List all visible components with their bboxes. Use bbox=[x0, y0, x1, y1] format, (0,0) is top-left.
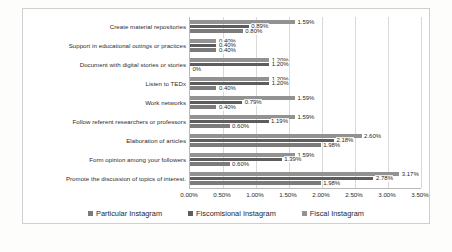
x-axis-tick-label: 1.00% bbox=[246, 191, 264, 199]
category-label: Listen to TEDx bbox=[27, 80, 186, 87]
x-axis-tick-label: 3.00% bbox=[378, 191, 396, 199]
data-label: 0.40% bbox=[218, 85, 236, 92]
category-label: Document with digital stories or stories bbox=[27, 61, 186, 68]
plot-wrapper: Create material repositoriesSupport in e… bbox=[23, 9, 429, 223]
x-axis-tick-label: 2.50% bbox=[345, 191, 363, 199]
bar-fiscomisional-instagram[interactable] bbox=[190, 44, 216, 48]
category-label: Elaboration of articles bbox=[27, 137, 186, 144]
legend-swatch-icon bbox=[88, 211, 93, 216]
data-label: 1.98% bbox=[323, 142, 341, 149]
data-label: 0.40% bbox=[218, 47, 236, 54]
data-label: 1.59% bbox=[297, 95, 315, 102]
bar-fiscomisional-instagram[interactable] bbox=[190, 63, 269, 67]
bar-particular-instagram[interactable] bbox=[190, 181, 321, 185]
data-label: 1.39% bbox=[284, 156, 302, 163]
data-label: 3.17% bbox=[401, 171, 419, 178]
data-label: 0.40% bbox=[218, 104, 236, 111]
legend-label: Fiscomisional Instagram bbox=[196, 209, 276, 218]
bar-particular-instagram[interactable] bbox=[190, 29, 243, 33]
chart-container: Create material repositoriesSupport in e… bbox=[22, 8, 430, 224]
legend-item-fiscomisional-instagram[interactable]: Fiscomisional Instagram bbox=[188, 209, 276, 218]
data-label: 1.59% bbox=[297, 19, 315, 26]
bar-fiscal-instagram[interactable] bbox=[190, 96, 295, 100]
bar-particular-instagram[interactable] bbox=[190, 162, 230, 166]
legend-label: Fiscal Instagram bbox=[310, 209, 364, 218]
bar-fiscomisional-instagram[interactable] bbox=[190, 120, 269, 124]
bar-group: 3.17%2.78%1.98% bbox=[190, 169, 421, 188]
bar-fiscal-instagram[interactable] bbox=[190, 153, 295, 157]
bar-group: 1.59%1.19%0.60% bbox=[190, 112, 421, 131]
chart-legend: Particular Instagram Fiscomisional Insta… bbox=[23, 209, 429, 218]
bar-particular-instagram[interactable] bbox=[190, 48, 216, 52]
data-label: 1.59% bbox=[297, 114, 315, 121]
bar-group: 1.20%1.20%0% bbox=[190, 55, 421, 74]
bar-group: 1.20%1.20%0.40% bbox=[190, 74, 421, 93]
bar-fiscal-instagram[interactable] bbox=[190, 39, 216, 43]
x-axis-tick-label: 0.50% bbox=[213, 191, 231, 199]
page-background: Create material repositoriesSupport in e… bbox=[0, 0, 452, 252]
bar-group: 1.59%0.89%0.80% bbox=[190, 17, 421, 36]
bar-particular-instagram[interactable] bbox=[190, 105, 216, 109]
x-axis-tick-label: 0.00% bbox=[180, 191, 198, 199]
legend-swatch-icon bbox=[188, 211, 193, 216]
x-axis-tick-label: 3.50% bbox=[411, 191, 429, 199]
bar-fiscomisional-instagram[interactable] bbox=[190, 25, 249, 29]
data-label: 2.78% bbox=[375, 175, 393, 182]
data-label: 0.79% bbox=[244, 99, 262, 106]
category-label: Form opinion among your followers bbox=[27, 156, 186, 163]
data-label: 0.60% bbox=[232, 123, 250, 130]
bar-fiscal-instagram[interactable] bbox=[190, 172, 399, 176]
bar-group: 2.60%2.18%1.98% bbox=[190, 131, 421, 150]
bar-group: 1.59%0.79%0.40% bbox=[190, 93, 421, 112]
data-label: 1.20% bbox=[271, 80, 289, 87]
x-axis-tick-label: 1.50% bbox=[279, 191, 297, 199]
data-label: 1.20% bbox=[271, 61, 289, 68]
bar-fiscomisional-instagram[interactable] bbox=[190, 177, 373, 181]
legend-swatch-icon bbox=[302, 211, 307, 216]
data-label: 0.60% bbox=[232, 161, 250, 168]
plot-area: 1.59%0.89%0.80%0.40%0.40%0.40%1.20%1.20%… bbox=[189, 17, 421, 188]
category-label: Promote the discussion of topics of inte… bbox=[27, 175, 186, 182]
legend-item-fiscal-instagram[interactable]: Fiscal Instagram bbox=[302, 209, 364, 218]
bar-fiscal-instagram[interactable] bbox=[190, 58, 269, 62]
data-label: 0% bbox=[192, 66, 202, 73]
legend-label: Particular Instagram bbox=[96, 209, 162, 218]
bar-particular-instagram[interactable] bbox=[190, 86, 216, 90]
bar-fiscal-instagram[interactable] bbox=[190, 20, 295, 24]
x-axis-tick-label: 2.00% bbox=[312, 191, 330, 199]
category-label: Follow referent researchers or professor… bbox=[27, 118, 186, 125]
category-label: Work networks bbox=[27, 99, 186, 106]
gridline bbox=[421, 17, 422, 188]
bar-group: 1.59%1.39%0.60% bbox=[190, 150, 421, 169]
bar-group: 0.40%0.40%0.40% bbox=[190, 36, 421, 55]
legend-item-particular-instagram[interactable]: Particular Instagram bbox=[88, 209, 162, 218]
category-label: Support in educational outings or practi… bbox=[27, 42, 186, 49]
category-axis: Create material repositoriesSupport in e… bbox=[27, 17, 186, 188]
category-label: Create material repositories bbox=[27, 23, 186, 30]
bar-fiscal-instagram[interactable] bbox=[190, 77, 269, 81]
data-label: 2.60% bbox=[364, 133, 382, 140]
bar-fiscomisional-instagram[interactable] bbox=[190, 139, 334, 143]
data-label: 1.98% bbox=[323, 180, 341, 187]
data-label: 0.80% bbox=[245, 28, 263, 35]
data-label: 1.19% bbox=[271, 118, 289, 125]
bar-particular-instagram[interactable] bbox=[190, 124, 230, 128]
bar-particular-instagram[interactable] bbox=[190, 143, 321, 147]
x-axis: 0.00%0.50%1.00%1.50%2.00%2.50%3.00%3.50% bbox=[189, 188, 421, 203]
